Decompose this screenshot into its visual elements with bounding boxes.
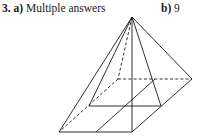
pyramid-figure: [0, 0, 198, 139]
pyramid-edge: [89, 17, 132, 106]
pyramid-hidden-edge: [118, 17, 132, 79]
pyramid-edge: [132, 17, 161, 106]
pyramid-solid-edges: [59, 17, 192, 132]
pyramid-edge: [59, 17, 132, 132]
pyramid-edge: [132, 17, 192, 79]
pyramid-hidden-edge: [59, 79, 118, 132]
pyramid-hidden-edges: [59, 17, 192, 132]
pyramid-edge: [96, 79, 155, 132]
pyramid-edge: [132, 79, 192, 132]
